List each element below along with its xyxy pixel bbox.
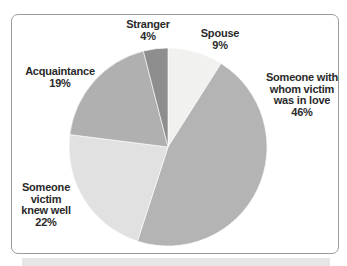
label-stranger-pct: 4% — [118, 31, 178, 43]
label-love-line1: Someone with — [262, 72, 342, 84]
label-knew-line3: knew well — [14, 205, 78, 217]
label-love-pct: 46% — [262, 107, 342, 119]
pie-slices — [69, 48, 267, 246]
label-acq-name: Acquaintance — [22, 66, 98, 78]
label-stranger: Stranger 4% — [118, 19, 178, 42]
label-spouse-name: Spouse — [195, 28, 245, 40]
label-knew-line1: Someone — [14, 182, 78, 194]
label-acq-pct: 19% — [22, 78, 98, 90]
label-love: Someone with whom victim was in love 46% — [262, 72, 342, 118]
label-knew-pct: 22% — [14, 217, 78, 229]
label-knew-well: Someone victim knew well 22% — [14, 182, 78, 228]
label-acquaintance: Acquaintance 19% — [22, 66, 98, 89]
label-stranger-name: Stranger — [118, 19, 178, 31]
label-spouse: Spouse 9% — [195, 28, 245, 51]
label-love-line3: was in love — [262, 95, 342, 107]
label-spouse-pct: 9% — [195, 40, 245, 52]
